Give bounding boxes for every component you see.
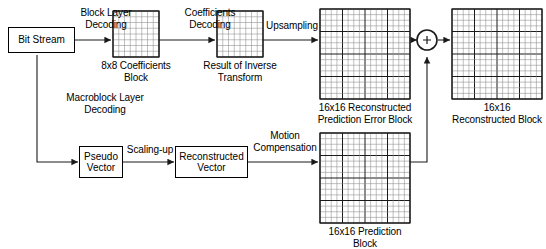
edge-label-coefficients-decoding: Coefficients Decoding xyxy=(160,7,260,30)
prediction-error-block xyxy=(320,9,410,99)
pseudo-vector-label: Pseudo Vector xyxy=(79,146,123,178)
reconstructed-vector-label: Reconstructed Vector xyxy=(175,146,248,178)
bit-stream-label: Bit Stream xyxy=(8,27,75,53)
reconstructed-block xyxy=(452,9,542,99)
edge-label-macroblock-layer-decoding: Macroblock Layer Decoding xyxy=(50,92,160,115)
edge-label-motion-compensation: Motion Compensation xyxy=(249,130,321,153)
reconstructed-block-caption: 16x16 Reconstructed Block xyxy=(422,102,546,125)
prediction-block-caption: 16x16 Prediction Block xyxy=(290,226,440,249)
edge-label-block-layer-decoding: Block Layer Decoding xyxy=(60,7,152,30)
edge-label-upsampling: Upsampling xyxy=(262,20,322,32)
inverse-transform-block-caption: Result of Inverse Transform xyxy=(165,60,315,83)
adder-node xyxy=(417,30,437,50)
prediction-block xyxy=(320,133,410,223)
edge-label-scaling-up: Scaling-up xyxy=(124,144,176,156)
prediction-error-block-caption: 16x16 Reconstructed Prediction Error Blo… xyxy=(290,102,440,125)
